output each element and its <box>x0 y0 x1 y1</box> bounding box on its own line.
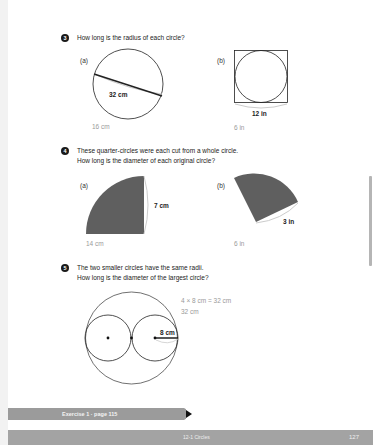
part-label-b: (b) <box>217 57 225 64</box>
question-text-line2: How long is the diameter of each origina… <box>77 156 215 166</box>
exercise-link-tab[interactable]: Exercise 1 · page 115 <box>8 408 186 420</box>
quarter-circle-4a <box>86 176 156 238</box>
square-circle-diagram-3b <box>234 50 290 110</box>
part-label-b: (b) <box>217 182 225 189</box>
page-footer: 12-1 Circles 127 <box>8 430 373 445</box>
question-text-line2: How long is the diameter of the largest … <box>77 273 209 283</box>
exercise-link-label: Exercise 1 · page 115 <box>62 408 117 420</box>
question-number-badge: 4 <box>61 147 69 155</box>
question-text: How long is the radius of each circle? <box>77 33 185 43</box>
answer-text: 6 in <box>234 124 244 131</box>
measure-label: 7 cm <box>154 202 169 209</box>
footer-section-title: 12-1 Circles <box>183 430 210 445</box>
measure-label: 8 cm <box>160 329 175 336</box>
answer-text: 16 cm <box>92 123 110 130</box>
measure-label: 32 cm <box>109 91 127 98</box>
arrow-right-icon <box>186 410 192 418</box>
question-text-line1: The two smaller circles have the same ra… <box>77 263 203 273</box>
circle-diagram-3a <box>90 48 170 122</box>
question-number-badge: 5 <box>61 264 69 272</box>
question-text-line1: These quarter-circles were each cut from… <box>77 146 238 156</box>
measure-label: 12 in <box>252 110 267 117</box>
left-margin <box>0 0 8 445</box>
answer-text: 6 in <box>234 240 244 247</box>
question-number-badge: 3 <box>61 34 69 42</box>
answer-text: 32 cm <box>181 308 199 315</box>
answer-text: 14 cm <box>86 240 104 247</box>
measure-label: 3 in <box>283 218 294 225</box>
footer-page-number: 127 <box>349 430 359 445</box>
nested-circles-diagram-5 <box>84 292 184 392</box>
part-label-a: (a) <box>80 57 88 64</box>
answer-working: 4 × 8 cm = 32 cm <box>181 297 231 304</box>
scrollbar-thumb[interactable] <box>369 176 372 266</box>
